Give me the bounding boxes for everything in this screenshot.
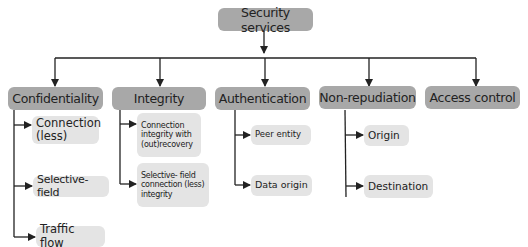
leaf-data-origin: Data origin (251, 175, 312, 196)
leaf-label: Selective- field connection (less) integ… (141, 171, 205, 199)
leaf-connection-less: Connection (less) (32, 116, 99, 144)
category-non-repudiation: Non-repudiation (319, 86, 416, 109)
category-integrity: Integrity (112, 87, 206, 110)
leaf-origin: Origin (364, 125, 409, 146)
root-node-security-services: Security services (218, 8, 313, 31)
leaf-label: Destination (368, 180, 428, 192)
leaf-peer-entity: Peer entity (251, 125, 311, 145)
leaf-label: Connection (less) (36, 117, 101, 143)
category-access-control: Access control (425, 86, 520, 109)
leaf-label: Origin (368, 129, 400, 141)
leaf-selective-field: Selective-field (33, 176, 109, 197)
leaf-label: Selective-field (37, 174, 105, 199)
leaf-destination: Destination (364, 175, 433, 198)
leaf-selective-field-connection-integrity: Selective- field connection (less) integ… (137, 163, 209, 207)
root-label: Security services (218, 5, 313, 35)
category-authentication: Authentication (215, 87, 310, 110)
leaf-label: Connection integrity with (out)recovery (141, 121, 197, 149)
category-label: Confidentiality (12, 91, 99, 106)
category-label: Authentication (219, 91, 307, 106)
category-label: Access control (430, 90, 516, 105)
leaf-label: Traffic flow (40, 223, 101, 247)
category-label: Integrity (134, 91, 184, 106)
leaf-traffic-flow: Traffic flow (36, 226, 105, 247)
leaf-label: Data origin (255, 180, 308, 191)
leaf-label: Peer entity (255, 130, 301, 140)
leaf-connection-integrity-recovery: Connection integrity with (out)recovery (137, 113, 201, 157)
category-label: Non-repudiation (319, 90, 415, 105)
category-confidentiality: Confidentiality (8, 87, 103, 110)
